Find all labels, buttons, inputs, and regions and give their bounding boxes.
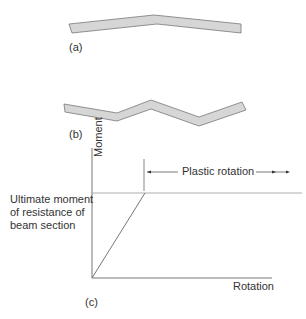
beam-single-hinge bbox=[69, 15, 241, 33]
panel-a-label: (a) bbox=[69, 41, 82, 53]
x-axis-label: Rotation bbox=[233, 280, 274, 292]
arrow-left-head-icon bbox=[147, 171, 151, 174]
ultimate-line-1: Ultimate moment bbox=[10, 193, 93, 206]
panel-b-label: (b) bbox=[69, 128, 82, 140]
arrow-right-head-icon-2 bbox=[286, 171, 290, 174]
arrow-right-head-icon bbox=[272, 171, 276, 174]
ultimate-line-2: of resistance of bbox=[10, 206, 93, 219]
plastic-rotation-label: Plastic rotation bbox=[182, 165, 254, 177]
ultimate-line-3: beam section bbox=[10, 219, 93, 232]
figure-canvas bbox=[0, 0, 306, 319]
elastic-rise-line bbox=[92, 193, 145, 278]
panel-c-label: (c) bbox=[85, 296, 98, 308]
ultimate-moment-label: Ultimate moment of resistance of beam se… bbox=[10, 193, 93, 232]
y-axis-label: Moment bbox=[92, 117, 104, 157]
